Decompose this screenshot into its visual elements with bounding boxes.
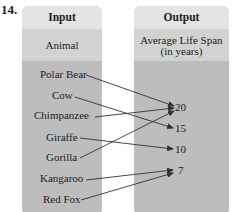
arrow-polar-bear-to-20 [86, 75, 174, 106]
mapping-arrows [0, 0, 232, 212]
arrow-gorilla-to-20 [80, 111, 174, 158]
arrow-giraffe-to-10 [80, 138, 173, 149]
arrow-cow-to-15 [75, 97, 173, 128]
arrow-kangaroo-to-7 [86, 170, 173, 180]
arrow-red-fox-to-7 [81, 173, 173, 200]
